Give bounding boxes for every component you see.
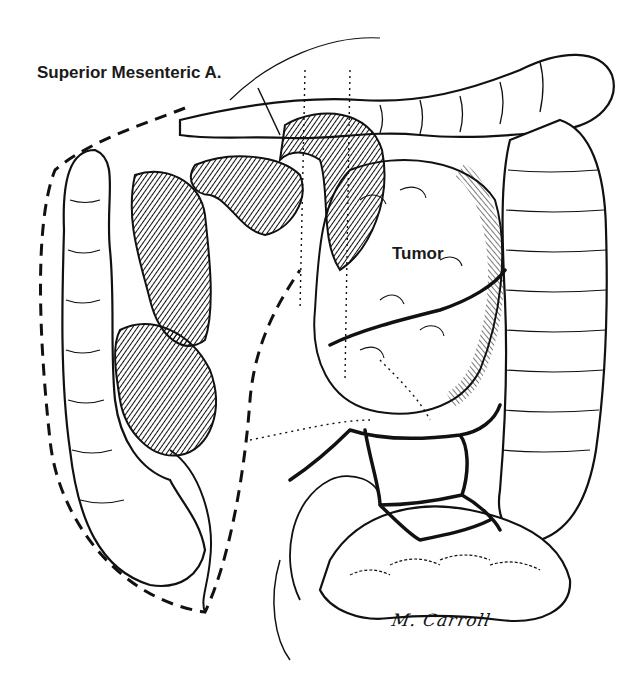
anatomy-drawing xyxy=(0,0,640,694)
small-bowel-loop-2 xyxy=(191,156,303,235)
small-bowel-loop-3 xyxy=(132,172,211,346)
label-superior-mesenteric-artery: Superior Mesenteric A. xyxy=(37,63,222,83)
label-tumor: Tumor xyxy=(392,244,444,264)
small-bowel-loop-4 xyxy=(115,324,216,455)
artist-signature: M. Carroll xyxy=(390,610,492,630)
